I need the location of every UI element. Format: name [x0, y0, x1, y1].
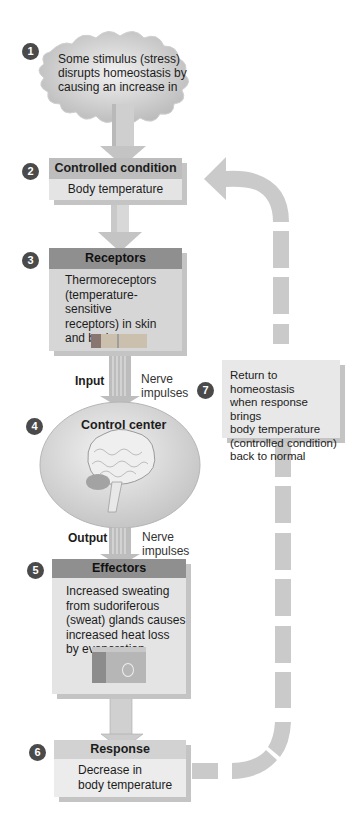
step-badge-6: 6: [29, 744, 46, 761]
receptors-header: Receptors: [49, 248, 182, 269]
input-label: Input: [75, 374, 104, 388]
controlled-condition-box: Controlled condition Body temperature: [49, 158, 182, 200]
response-box: Response Decrease in body temperature: [54, 740, 186, 797]
effectors-text: Increased sweating from sudoriferous (sw…: [52, 578, 186, 657]
response-text: Decrease in body temperature: [54, 759, 186, 792]
controlled-condition-text: Body temperature: [49, 179, 182, 200]
arrow-input-nerve: [100, 350, 140, 408]
response-header: Response: [54, 740, 186, 759]
receptors-box: Receptors Thermoreceptors (temperature-s…: [49, 248, 182, 351]
step-badge-5: 5: [27, 562, 44, 579]
step-badge-4: 4: [26, 418, 43, 435]
return-homeostasis-box: Return to homeostasis when response brin…: [222, 360, 340, 438]
nerve-impulses-output-label: Nerve impulses: [142, 530, 189, 558]
effectors-box: Effectors Increased sweating from sudori…: [52, 559, 186, 694]
effectors-header: Effectors: [52, 559, 186, 578]
controlled-condition-header: Controlled condition: [49, 158, 182, 179]
step-badge-3: 3: [22, 252, 39, 269]
step-badge-7: 7: [197, 382, 214, 399]
nerve-impulses-input-label: Nerve impulses: [141, 372, 188, 400]
feedback-loop-arrow: [192, 157, 291, 779]
skin-section-icon: [91, 334, 147, 348]
step-badge-2: 2: [22, 163, 39, 180]
step-badge-1: 1: [22, 43, 39, 60]
control-center-label: Control center: [81, 418, 166, 432]
output-label: Output: [68, 531, 107, 545]
return-homeostasis-text: Return to homeostasis when response brin…: [222, 360, 340, 464]
sweat-gland-icon: [92, 647, 146, 683]
arrow-condition-to-receptors: [98, 200, 142, 252]
stimulus-text: Some stimulus (stress) disrupts homeosta…: [58, 52, 187, 94]
